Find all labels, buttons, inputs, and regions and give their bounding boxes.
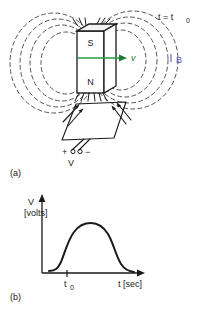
terminal-plus: + [62, 147, 67, 157]
field-label: B [176, 55, 182, 65]
physics-figure: S N v B t = t 0 [0, 0, 208, 310]
voltage-label: V [68, 158, 74, 168]
plot-y-axis-arrowhead [39, 194, 46, 202]
flux-hatch-bottom [75, 93, 107, 101]
plot-tick-label-t0-subscript: 0 [70, 284, 74, 291]
voltage-pulse-curve [49, 223, 134, 272]
panel-a-group: S N v B t = t 0 [10, 11, 190, 178]
plot-x-axis-arrowhead [137, 270, 145, 277]
panel-b-group: V [volts] t 0 t [sec] (b) [10, 194, 145, 302]
terminal-minus: − [85, 147, 90, 157]
induced-current-arrows [63, 103, 131, 127]
time-label-subscript: 0 [186, 17, 190, 24]
conducting-loop [62, 102, 126, 140]
magnet-pole-north: N [87, 77, 94, 87]
time-label: t = t [158, 12, 174, 22]
velocity-label: v [131, 53, 136, 63]
terminal-post-left [71, 149, 75, 153]
panel-b-caption: (b) [10, 292, 21, 302]
magnet-pole-south: S [87, 38, 93, 48]
panel-a-caption: (a) [10, 168, 21, 178]
plot-y-axis-units: [volts] [24, 208, 48, 218]
terminal-post-right [78, 149, 82, 153]
plot-x-axis-label: t [sec] [118, 279, 142, 289]
plot-tick-label-t0: t [64, 279, 67, 289]
plot-y-axis-label: V [28, 197, 34, 207]
figure-canvas: S N v B t = t 0 [0, 0, 208, 310]
